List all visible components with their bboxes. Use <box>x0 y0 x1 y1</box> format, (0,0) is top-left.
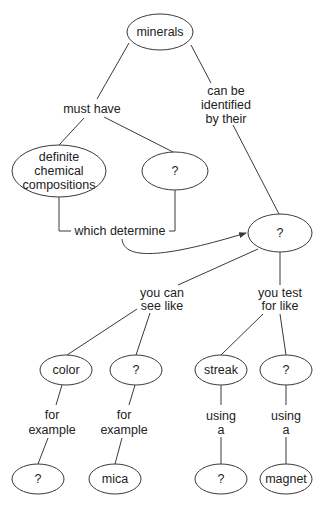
link-label-for-example-mica: for example <box>100 408 147 437</box>
link-label-line: identified <box>201 98 251 112</box>
link-label-line: for <box>117 408 132 422</box>
node-unknown-structure: ? <box>142 152 208 190</box>
link-label-line: using <box>206 409 236 423</box>
node-definite-chemical-compositions: definite chemical compositions <box>12 145 106 197</box>
link-label-must-have: must have <box>63 102 121 116</box>
node-label: ? <box>172 164 179 178</box>
node-unknown-properties: ? <box>248 214 312 252</box>
link-label-using-a-magnet: using a <box>271 409 301 437</box>
link-label-which-determine: which determine <box>73 224 165 238</box>
node-unknown-visible-property: ? <box>110 355 162 385</box>
node-label-line: compositions <box>23 178 96 192</box>
node-label: color <box>52 363 79 377</box>
link-label-test-like: you test for like <box>258 286 302 313</box>
node-label: magnet <box>265 472 307 486</box>
link-label-identified-by: can be identified by their <box>201 84 251 126</box>
link-label-line: for like <box>262 299 299 313</box>
node-label: streak <box>204 363 239 377</box>
node-unknown-streak-tool: ? <box>195 464 247 494</box>
node-label-line: chemical <box>34 164 83 178</box>
node-unknown-color-example: ? <box>12 464 64 494</box>
link-label: which determine <box>73 224 165 238</box>
node-unknown-test-property: ? <box>260 355 312 385</box>
node-label: ? <box>133 363 140 377</box>
node-label: ? <box>218 472 225 486</box>
link-label-line: you can <box>140 286 184 300</box>
link-label-line: example <box>28 423 75 437</box>
link-label-line: a <box>218 423 225 437</box>
link-label-line: using <box>271 409 301 423</box>
link-label-for-example-color: for example <box>28 408 75 437</box>
node-label: mica <box>102 472 128 486</box>
node-label-line: definite <box>39 150 79 164</box>
link-label-line: can be <box>207 84 245 98</box>
link-label-line: by their <box>206 112 247 126</box>
link-label-line: you test <box>258 286 302 300</box>
link-label-line: see like <box>141 299 183 313</box>
link-label-line: example <box>100 423 147 437</box>
node-label: ? <box>277 226 284 240</box>
node-mica: mica <box>89 464 141 494</box>
concept-map: minerals definite chemical compositions … <box>0 0 326 508</box>
node-streak: streak <box>195 355 247 385</box>
link-label-line: a <box>283 423 290 437</box>
node-label: ? <box>283 363 290 377</box>
node-magnet: magnet <box>260 464 312 494</box>
node-label: minerals <box>136 25 183 39</box>
link-label-using-a-streak: using a <box>206 409 236 437</box>
link-label-see-like: you can see like <box>140 286 184 313</box>
link-label-line: for <box>45 408 60 422</box>
node-color: color <box>40 355 92 385</box>
link-label: must have <box>63 102 121 116</box>
node-minerals: minerals <box>127 14 193 50</box>
node-label: ? <box>35 472 42 486</box>
